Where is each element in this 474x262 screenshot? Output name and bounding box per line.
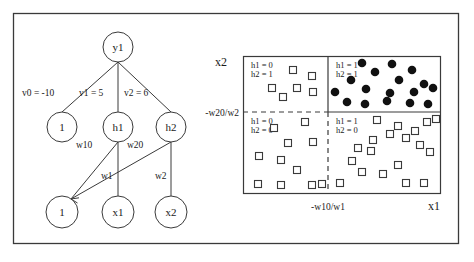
figure-border: [14, 14, 459, 244]
axis-label-x1: x1: [428, 199, 440, 213]
data-point-0-12: [343, 98, 352, 107]
data-point-3-14: [380, 171, 387, 178]
edge-label-6: w2: [155, 171, 167, 181]
data-point-2-9: [309, 182, 316, 189]
data-point-0-13: [361, 100, 370, 109]
node-input-2-label: x2: [166, 206, 177, 218]
data-point-2-1: [271, 125, 278, 132]
data-point-3-15: [403, 180, 410, 187]
threshold-label-x: -w10/w1: [311, 202, 345, 212]
node-hidden-2-label: h2: [166, 121, 177, 133]
edge-label-2: v2 = 6: [124, 88, 149, 98]
data-point-0-8: [362, 85, 371, 94]
data-point-2-2: [285, 140, 292, 147]
node-y1-label: y1: [113, 41, 124, 53]
data-point-3-3: [412, 128, 419, 135]
data-point-0-1: [388, 60, 397, 69]
quadrant-top-left-h2: h2 = 1: [251, 69, 273, 79]
data-point-2-6: [294, 167, 301, 174]
axis-label-x2: x2: [215, 55, 227, 69]
data-point-0-5: [395, 76, 404, 85]
edge-label-5: w1: [101, 171, 113, 181]
quadrant-top-right-h2: h2 = 1: [336, 69, 358, 79]
edge-y1-h2: [118, 62, 171, 112]
data-point-3-2: [395, 123, 402, 130]
data-point-2-10: [319, 181, 326, 188]
data-point-0-10: [410, 88, 419, 97]
edge-label-4: w20: [127, 140, 144, 150]
data-point-1-0: [290, 67, 297, 74]
node-input-0-label: 1: [59, 206, 65, 218]
data-point-2-5: [278, 157, 285, 164]
data-point-3-18: [359, 169, 366, 176]
data-point-2-7: [255, 181, 262, 188]
data-point-3-11: [395, 162, 402, 169]
data-point-1-4: [310, 89, 317, 96]
data-point-1-3: [294, 85, 301, 92]
data-point-0-9: [386, 89, 395, 98]
edge-label-1: v1 = 5: [79, 88, 104, 98]
node-input-1-label: x1: [113, 206, 124, 218]
data-point-0-6: [420, 80, 429, 89]
data-point-0-15: [406, 99, 415, 108]
data-point-2-8: [278, 182, 285, 189]
node-hidden-0-label: 1: [59, 121, 65, 133]
edge-label-0: v0 = -10: [22, 88, 55, 98]
data-point-0-11: [429, 84, 438, 93]
data-point-1-2: [269, 85, 276, 92]
figure-svg: y11h1h21x1x2v0 = -10v1 = 5v2 = 6w10w20w1…: [0, 0, 474, 262]
data-point-3-0: [374, 117, 381, 124]
data-point-3-8: [355, 145, 362, 152]
data-point-0-2: [408, 66, 417, 75]
threshold-label-y: -w20/w2: [205, 108, 239, 118]
data-point-3-16: [421, 180, 428, 187]
data-point-3-12: [417, 142, 424, 149]
quadrant-bottom-left-h2: h2 = 0: [251, 125, 273, 135]
data-point-2-3: [310, 139, 317, 146]
data-point-1-5: [280, 94, 287, 101]
data-point-3-5: [403, 135, 410, 142]
edge-label-3: w10: [76, 140, 93, 150]
data-point-2-4: [256, 153, 263, 160]
data-point-1-1: [309, 73, 316, 80]
figure-canvas: y11h1h21x1x2v0 = -10v1 = 5v2 = 6w10w20w1…: [0, 0, 474, 262]
edge-y1-bias: [62, 62, 118, 112]
data-point-2-0: [302, 119, 309, 126]
data-point-3-4: [387, 131, 394, 138]
quadrant-bottom-right-h2: h2 = 0: [336, 125, 358, 135]
data-point-3-6: [433, 116, 440, 123]
data-point-0-16: [424, 100, 433, 109]
data-point-0-0: [358, 59, 367, 68]
data-point-3-17: [337, 180, 344, 187]
node-hidden-1-label: h1: [113, 121, 124, 133]
data-point-3-9: [368, 148, 375, 155]
data-point-0-14: [383, 97, 392, 106]
data-point-3-1: [424, 119, 431, 126]
data-point-0-3: [371, 68, 380, 77]
data-point-0-7: [331, 88, 340, 97]
data-point-3-7: [370, 137, 377, 144]
data-point-0-4: [347, 76, 356, 85]
data-point-3-10: [349, 158, 356, 165]
data-point-3-13: [427, 149, 434, 156]
